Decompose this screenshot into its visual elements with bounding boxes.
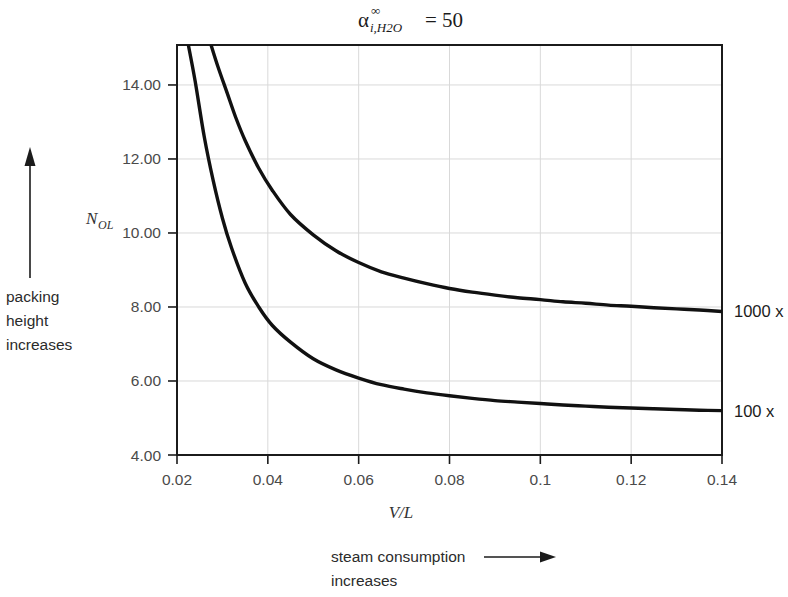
y-axis-tick-label: 8.00 [131, 298, 162, 315]
chart-title-symbol: α [358, 8, 369, 32]
packing-height-label-line-1: packing [6, 288, 59, 305]
chart-title-value: = 50 [425, 8, 463, 32]
y-axis-title-base: N [85, 209, 99, 228]
y-axis-tick-label: 12.00 [122, 150, 161, 167]
x-axis-tick-label: 0.12 [616, 471, 646, 488]
x-axis-tick-label: 0.14 [707, 471, 738, 488]
y-axis-tick-label: 10.00 [122, 224, 161, 241]
y-axis-tick-label: 6.00 [131, 372, 162, 389]
y-axis-title-subscript: OL [98, 218, 114, 232]
steam-consumption-label-line-2: increases [331, 572, 398, 589]
x-axis-tick-label: 0.1 [530, 471, 552, 488]
series-label-1: 100 x [734, 402, 775, 420]
y-axis-tick-label: 4.00 [131, 447, 162, 464]
x-axis-tick-label: 0.04 [253, 471, 284, 488]
steam-consumption-label-line-1: steam consumption [331, 548, 465, 565]
x-axis-tick-label: 0.02 [162, 471, 192, 488]
x-axis-title: V/L [389, 503, 414, 522]
x-axis-tick-label: 0.08 [434, 471, 464, 488]
series-label-0: 1000 x [734, 302, 784, 320]
y-axis-tick-label: 14.00 [122, 76, 161, 93]
chart-title-subscript: i,H2O [370, 20, 403, 35]
x-axis-tick-label: 0.06 [344, 471, 374, 488]
chart-title-superscript: ∞ [371, 3, 380, 18]
chart-figure: α ∞ i,H2O = 50 4.006.008.0010.0012.0014.… [0, 0, 788, 597]
packing-height-label-line-2: height [6, 312, 49, 329]
packing-height-label-line-3: increases [6, 336, 73, 353]
